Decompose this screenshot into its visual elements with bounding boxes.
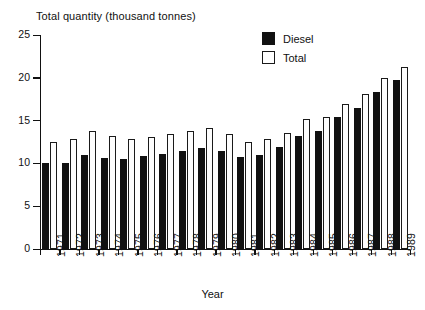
x-axis-label: 1982	[269, 233, 281, 257]
x-axis-label: 1987	[366, 233, 378, 257]
x-axis-label: 1984	[308, 233, 320, 257]
y-axis-tick	[33, 206, 40, 207]
x-axis-label: 1986	[347, 233, 359, 257]
bar-total	[167, 134, 174, 249]
x-axis-label: 1974	[113, 233, 125, 257]
x-axis-label: 1985	[327, 233, 339, 257]
bar-diesel	[373, 92, 380, 249]
bar-total	[303, 119, 310, 249]
y-axis-tick	[33, 35, 40, 36]
x-axis-title: Year	[0, 288, 425, 300]
y-axis-tick-label: 20	[0, 72, 30, 82]
y-axis-tick-label: 5	[0, 200, 30, 210]
chart-legend: Diesel Total	[262, 30, 382, 68]
y-axis-tick	[33, 163, 40, 164]
x-axis-label: 1977	[172, 233, 184, 257]
legend-swatch-diesel-icon	[262, 32, 275, 45]
y-axis-tick-label: 0	[0, 243, 30, 253]
bar-total	[342, 104, 349, 249]
bar-total	[381, 78, 388, 249]
x-axis-label: 1980	[230, 233, 242, 257]
bar-diesel	[393, 80, 400, 249]
y-axis-tick-label: 10	[0, 157, 30, 167]
x-axis-label: 1975	[133, 233, 145, 257]
x-axis-label: 1971	[55, 233, 67, 257]
x-axis-label: 1989	[405, 233, 417, 257]
x-axis-label: 1972	[74, 233, 86, 257]
x-axis-label: 1988	[386, 233, 398, 257]
y-axis-tick	[33, 77, 40, 78]
legend-item-total: Total	[262, 49, 382, 66]
legend-swatch-total-icon	[262, 51, 275, 64]
x-axis-label: 1981	[249, 233, 261, 257]
bar-total	[226, 134, 233, 249]
y-axis-tick	[33, 249, 40, 250]
x-axis-label: 1983	[288, 233, 300, 257]
legend-label-diesel: Diesel	[283, 33, 314, 45]
bar-total	[89, 131, 96, 249]
bar-diesel	[354, 108, 361, 249]
bar-chart: Total quantity (thousand tonnes) 0510152…	[0, 0, 425, 310]
x-axis-label: 1979	[211, 233, 223, 257]
bar-total	[206, 128, 213, 249]
bar-diesel	[315, 131, 322, 249]
legend-item-diesel: Diesel	[262, 30, 382, 47]
chart-title: Total quantity (thousand tonnes)	[36, 10, 196, 22]
x-axis-label: 1978	[191, 233, 203, 257]
y-axis-tick	[33, 120, 40, 121]
bar-total	[284, 133, 291, 249]
bar-total	[323, 117, 330, 249]
y-axis-tick-label: 15	[0, 115, 30, 125]
bar-total	[362, 94, 369, 249]
x-axis-tick	[40, 250, 41, 255]
legend-label-total: Total	[283, 52, 306, 64]
bar-diesel	[334, 117, 341, 249]
x-axis-label: 1976	[152, 233, 164, 257]
x-axis-label: 1973	[94, 233, 106, 257]
bar-diesel	[42, 163, 49, 249]
bar-total	[187, 131, 194, 249]
bar-total	[401, 67, 408, 249]
y-axis-tick-label: 25	[0, 29, 30, 39]
